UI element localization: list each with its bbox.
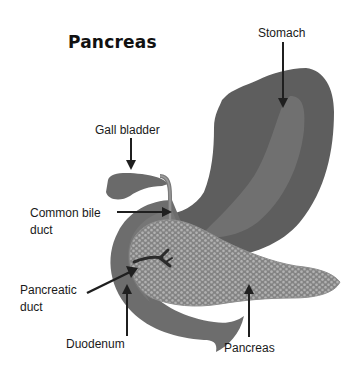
diagram-title: Pancreas	[68, 32, 157, 52]
gall-bladder-shape	[106, 173, 168, 200]
label-pancreatic-duct: Pancreatic duct	[20, 282, 77, 316]
label-pancreas: Pancreas	[224, 340, 275, 357]
label-gall-bladder: Gall bladder	[95, 122, 160, 139]
anatomy-illustration	[0, 0, 355, 375]
pancreas-diagram: Pancreas Stomach Gall bladder Common bil…	[0, 0, 355, 375]
label-stomach: Stomach	[258, 25, 305, 42]
label-common-bile-duct: Common bile duct	[30, 205, 101, 239]
label-duodenum: Duodenum	[66, 336, 125, 353]
